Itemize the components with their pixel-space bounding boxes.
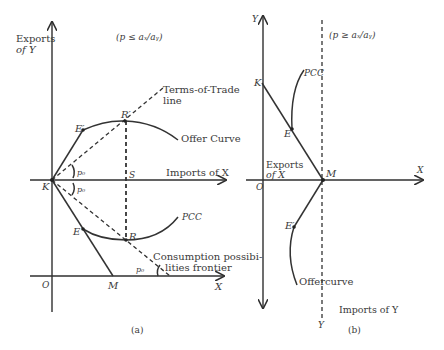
label-e-prime: E′ — [74, 123, 85, 134]
x-axis-label-b: X — [416, 165, 424, 175]
pcc-label-b: PCC — [303, 68, 324, 78]
tot-label-line1: Terms-of-Trade — [163, 84, 240, 95]
point-e — [81, 227, 85, 231]
label-k: K — [41, 181, 50, 192]
cpf-label-line1: Consumption possibi- — [153, 251, 262, 262]
offer-label-b-part1: Offer — [299, 276, 325, 287]
panel-a: Exports of Y (p ≤ aₓ/aᵧ) Terms-of-Trade … — [16, 22, 262, 335]
angle-arc-lower — [72, 183, 74, 195]
label-angle-frontier: p₀ — [136, 265, 145, 274]
point-r — [124, 238, 128, 242]
label-angle-lower: p₀ — [77, 185, 86, 194]
condition-label-b: (p ≥ aₓ/aᵧ) — [329, 30, 376, 40]
label-e-b: E — [283, 128, 292, 139]
label-m: M — [107, 280, 119, 291]
label-k-b: K — [253, 77, 262, 88]
caption-b: (b) — [348, 325, 361, 335]
label-angle-upper: p₀ — [77, 168, 86, 177]
segment-m-e-prime-b — [294, 180, 323, 227]
y-axis-label-line1: Exports — [16, 33, 55, 44]
label-e-prime-b: E′ — [284, 220, 295, 231]
point-k — [50, 178, 54, 182]
imports-y-label: Imports of Y — [339, 304, 399, 315]
label-e: E — [72, 226, 81, 237]
offer-label-b-part2: curve — [325, 276, 353, 287]
angle-arc-upper — [72, 165, 74, 178]
pcc-curve-b — [292, 70, 304, 129]
exports-x-label-line2: of X — [266, 169, 286, 180]
condition-label-a: (p ≤ aₓ/aᵧ) — [116, 32, 163, 42]
cpf-label-line2: lities frontier — [165, 262, 232, 273]
label-s: S — [129, 170, 135, 180]
y-axis-label-line2: of Y — [16, 44, 37, 55]
origin-label-b: O — [256, 182, 264, 192]
label-m-b: M — [325, 168, 337, 179]
offer-curve — [83, 121, 178, 140]
origin-label-a: O — [42, 280, 50, 290]
offer-curve-label: Offer Curve — [181, 133, 241, 144]
trade-diagram: Exports of Y (p ≤ aₓ/aᵧ) Terms-of-Trade … — [0, 0, 444, 350]
point-m-b — [321, 178, 325, 182]
panel-b: Y (p ≥ aₓ/aᵧ) K PCC E Exports of X M X O… — [246, 14, 424, 335]
y-axis-bottom-label-b: Y — [318, 320, 325, 330]
imports-x-label: Imports of X — [166, 167, 230, 178]
caption-a: (a) — [131, 325, 143, 335]
tot-label-line2: line — [163, 95, 182, 106]
terms-of-trade-line — [52, 88, 163, 180]
label-r: R — [128, 231, 137, 242]
x-axis-label-a: X — [214, 281, 223, 292]
offer-curve-b — [290, 227, 297, 285]
pcc-label-a: PCC — [181, 212, 202, 222]
y-axis-top-label-b: Y — [252, 14, 259, 24]
label-r-prime: R′ — [120, 109, 132, 120]
